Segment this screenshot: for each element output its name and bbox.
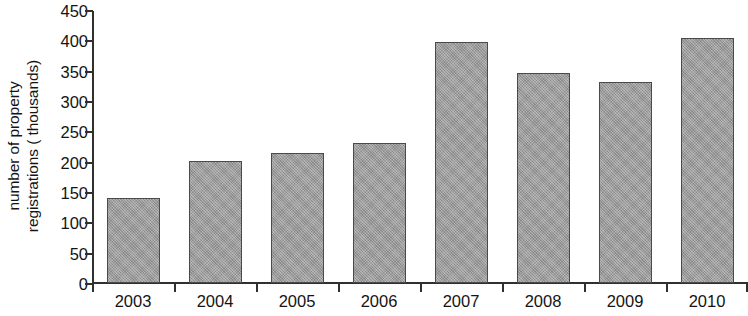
x-axis-tick-label: 2007 — [443, 292, 480, 310]
x-axis-tick-mark — [502, 283, 504, 292]
y-axis-tick-label: 450 — [44, 3, 88, 20]
x-axis-tick-label: 2004 — [197, 292, 234, 310]
x-axis-tick-mark — [420, 283, 422, 292]
x-axis-tick-label: 2008 — [525, 292, 562, 310]
y-axis-tick-mark — [85, 131, 93, 133]
bar-2010 — [681, 38, 734, 283]
y-axis-tick-mark — [85, 253, 93, 255]
x-axis-tick-mark — [174, 283, 176, 292]
x-axis-tick-labels: 20032004200520062007200820092010 — [92, 292, 748, 316]
y-axis-tick-label: 250 — [44, 124, 88, 141]
y-axis-tick-label: 300 — [44, 94, 88, 111]
bar-2006 — [353, 143, 406, 283]
y-axis-tick-mark — [85, 40, 93, 42]
x-axis-tick-mark — [584, 283, 586, 292]
bar-2009 — [599, 82, 652, 283]
y-axis-tick-mark — [85, 162, 93, 164]
plot-area — [92, 11, 748, 284]
bar-2008 — [517, 73, 570, 283]
y-axis-tick-mark — [85, 192, 93, 194]
y-axis-tick-labels: 050100150200250300350400450 — [44, 0, 88, 292]
y-axis-tick-label: 350 — [44, 63, 88, 80]
y-axis-line — [92, 11, 94, 284]
y-axis-tick-label: 100 — [44, 215, 88, 232]
bar-2003 — [107, 198, 160, 283]
y-axis-title-line-1: number of property — [4, 60, 23, 232]
x-axis-tick-mark — [92, 283, 94, 292]
y-axis-tick-label: 50 — [44, 245, 88, 262]
y-axis-tick-mark — [85, 71, 93, 73]
y-axis-tick-label: 150 — [44, 185, 88, 202]
x-axis-tick-mark — [256, 283, 258, 292]
y-axis-tick-label: 0 — [44, 276, 88, 293]
y-axis-tick-label: 200 — [44, 154, 88, 171]
x-axis-tick-mark — [338, 283, 340, 292]
x-axis-tick-label: 2006 — [361, 292, 398, 310]
y-axis-tick-mark — [85, 222, 93, 224]
x-axis-tick-label: 2009 — [607, 292, 644, 310]
y-axis-tick-mark — [85, 10, 93, 12]
x-axis-tick-mark — [666, 283, 668, 292]
bar-chart: number of property registrations ( thous… — [0, 0, 748, 316]
x-axis-tick-label: 2005 — [279, 292, 316, 310]
y-axis-tick-mark — [85, 101, 93, 103]
y-axis-tick-label: 400 — [44, 33, 88, 50]
y-axis-title-line-2: registrations ( thousands) — [23, 60, 42, 232]
bar-2007 — [435, 42, 488, 283]
x-axis-tick-label: 2003 — [115, 292, 152, 310]
bar-2005 — [271, 153, 324, 283]
bar-2004 — [189, 161, 242, 283]
x-axis-tick-label: 2010 — [689, 292, 726, 310]
y-axis-title: number of property registrations ( thous… — [0, 0, 46, 292]
